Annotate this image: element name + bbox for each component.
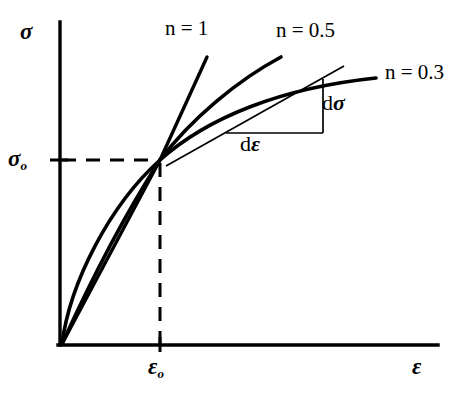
sigma-zero-subscript: o xyxy=(20,158,27,173)
stress-strain-figure: σ ε σo εo n = 1 n = 0.5 n = 0.3 dσ dε xyxy=(0,0,469,398)
curve-n-03 xyxy=(62,78,376,344)
axis-lines xyxy=(58,22,438,345)
x-tick-label-epsilon-zero: εo xyxy=(148,355,164,378)
sigma-variable: σ xyxy=(333,90,345,115)
epsilon-zero-subscript: o xyxy=(157,366,164,381)
tangent-rise-label: dσ xyxy=(322,92,345,114)
y-tick-label-sigma-zero: σo xyxy=(8,147,27,170)
epsilon-variable: ε xyxy=(251,131,260,156)
tangent-run-label: dε xyxy=(240,133,260,155)
curve-n-05 xyxy=(62,57,281,344)
curve-label-n-1: n = 1 xyxy=(165,18,208,39)
x-axis-label: ε xyxy=(412,355,421,378)
curve-label-n-03: n = 0.3 xyxy=(385,62,444,83)
sigma-zero-base: σ xyxy=(8,146,20,171)
curve-label-n-05: n = 0.5 xyxy=(276,20,335,41)
d-operator-epsilon: d xyxy=(240,131,251,156)
d-operator-sigma: d xyxy=(322,90,333,115)
y-axis-label: σ xyxy=(20,20,32,43)
